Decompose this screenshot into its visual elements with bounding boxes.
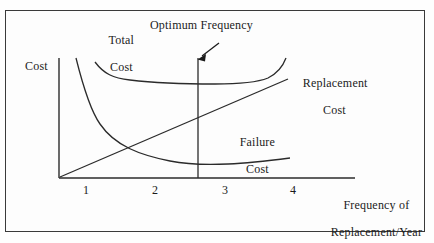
failure-cost-label-line1: Failure <box>240 135 275 149</box>
total-cost-label-line2: Cost <box>110 60 133 74</box>
figure-container: Cost Total Cost Optimum Frequency Replac… <box>0 0 434 243</box>
series-label-replacement-cost: Replacement Cost <box>290 64 366 131</box>
series-label-failure-cost: Failure Cost <box>224 123 278 190</box>
y-axis-label: Cost <box>25 60 48 73</box>
x-tick-label-4: 4 <box>283 183 303 198</box>
x-axis-label-line2: Replacement/Year <box>331 225 422 239</box>
x-axis-label-line1: Frequency of <box>343 198 409 212</box>
optimum-frequency-label: Optimum Frequency <box>150 19 253 32</box>
replacement-cost-label-line2: Cost <box>323 103 346 117</box>
optimum-frequency-arrow <box>198 43 220 62</box>
x-axis-label: Frequency of Replacement/Year <box>318 186 422 243</box>
x-tick-label-2: 2 <box>145 183 165 198</box>
series-label-total-cost: Total Cost <box>88 21 142 88</box>
replacement-cost-label-line1: Replacement <box>303 76 368 90</box>
total-cost-label-line1: Total <box>109 33 135 47</box>
failure-cost-label-line2: Cost <box>246 162 269 176</box>
x-tick-label-3: 3 <box>215 183 235 198</box>
x-tick-label-1: 1 <box>76 183 96 198</box>
